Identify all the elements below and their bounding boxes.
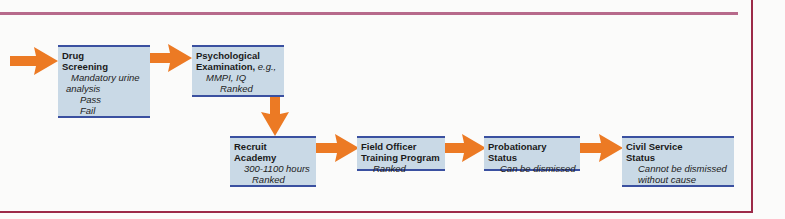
step-note: Ranked [234, 174, 312, 185]
step-note: Ranked [196, 83, 280, 94]
step-recruit-academy: RecruitAcademy 300-1100 hours Ranked [230, 136, 316, 187]
frame-bottom-rule [0, 211, 753, 213]
arrow-right-icon [313, 134, 359, 162]
step-note: Can be dismissed [488, 163, 576, 174]
outcome-pass: Pass [62, 94, 146, 105]
arrow-right-icon [10, 47, 58, 75]
step-note: MMPI, IQ [196, 72, 280, 83]
step-title: RecruitAcademy [234, 141, 312, 163]
step-title: DrugScreening [62, 50, 146, 72]
step-probationary-status: ProbationaryStatus Can be dismissed [484, 136, 580, 171]
step-drug-screening: DrugScreening Mandatory urine analysis P… [58, 45, 150, 118]
step-note: Ranked [361, 163, 441, 174]
frame-right-rule [751, 0, 753, 213]
arrow-right-icon [146, 44, 192, 72]
step-title: Field OfficerTraining Program [361, 141, 441, 163]
top-rule [0, 12, 738, 15]
arrow-right-icon [577, 134, 623, 162]
step-note: Cannot be dismissed [626, 163, 730, 174]
step-note: Mandatory urine [62, 72, 146, 83]
outcome-fail: Fail [62, 105, 146, 116]
arrow-down-icon [261, 96, 289, 136]
step-title: PsychologicalExamination, e.g., [196, 50, 280, 72]
step-title: ProbationaryStatus [488, 141, 576, 163]
step-note: analysis [62, 83, 146, 94]
step-title: Civil ServiceStatus [626, 141, 730, 163]
step-note: without cause [626, 174, 730, 185]
step-field-officer-training: Field OfficerTraining Program Ranked [357, 136, 445, 171]
step-psychological-examination: PsychologicalExamination, e.g., MMPI, IQ… [192, 45, 284, 97]
arrow-right-icon [440, 134, 486, 162]
step-civil-service-status: Civil ServiceStatus Cannot be dismissed … [622, 136, 734, 187]
step-note: 300-1100 hours [234, 163, 312, 174]
